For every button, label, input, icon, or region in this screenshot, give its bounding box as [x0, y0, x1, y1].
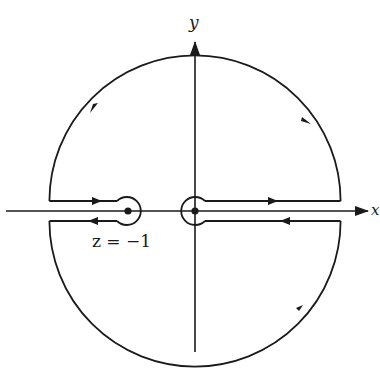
pole-point: [124, 207, 131, 214]
arrow-arc-icon: [296, 305, 303, 311]
y-axis-label: y: [188, 12, 199, 32]
arrow-left-icon: [88, 217, 98, 225]
arrow-right-icon: [92, 197, 102, 205]
contour-diagram: x y z = −1: [0, 0, 380, 377]
arrow-arc-icon: [90, 103, 98, 113]
arrow-right-icon: [268, 197, 278, 205]
pole-label: z = −1: [92, 231, 151, 251]
origin-point: [191, 207, 198, 214]
arrow-arc-icon: [301, 117, 311, 124]
arrow-left-icon: [280, 217, 290, 225]
x-axis-label: x: [371, 201, 380, 219]
direction-arrows: [88, 103, 311, 311]
